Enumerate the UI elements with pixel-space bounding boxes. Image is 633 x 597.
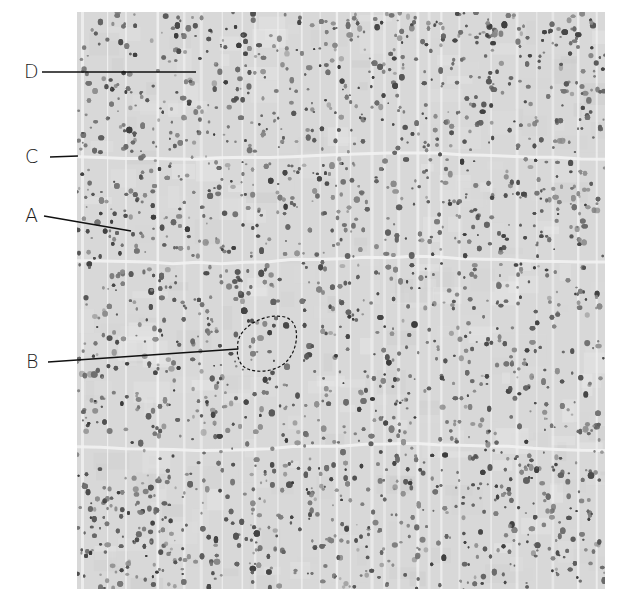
leader-line-c (50, 156, 78, 157)
wood-section-figure: D C A B (0, 0, 633, 597)
label-d: D (24, 62, 39, 81)
label-a: A (25, 206, 38, 225)
label-b: B (26, 352, 38, 371)
label-c: C (25, 147, 38, 166)
micrograph-texture (77, 12, 605, 589)
wood-micrograph (77, 12, 605, 589)
